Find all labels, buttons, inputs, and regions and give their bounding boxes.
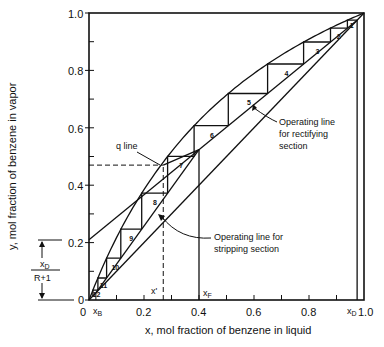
xd-label: xD: [347, 306, 357, 317]
x-tick-0.2: 0.2: [136, 306, 151, 318]
rectifying-label-2: for rectifying: [279, 129, 328, 139]
stage-label: 1: [350, 22, 354, 29]
stage-label: 7: [179, 162, 183, 169]
rectifying-label-1: Operating line: [279, 117, 335, 127]
arrowhead-down-icon: [39, 293, 45, 299]
y-tick-0.4: 0.4: [68, 180, 83, 192]
plot-lines: [89, 13, 364, 300]
y-axis-title: y, mol fraction of benzene in vapor: [6, 82, 18, 250]
stripping-label-1: Operating line for: [214, 232, 283, 242]
mccabe-thiele-diagram: 123456789101112 0 0.2 0.4 0.6 0.8 1.0 0 …: [0, 0, 384, 347]
stage-label: 3: [315, 48, 319, 55]
xb-label: xB: [93, 306, 103, 317]
arrowhead-up-icon: [39, 241, 45, 247]
y-tick-0.8: 0.8: [68, 65, 83, 77]
q-line-pointer: [137, 152, 160, 165]
y-tick-0.6: 0.6: [68, 123, 83, 135]
x-tick-0.6: 0.6: [246, 306, 261, 318]
y-tick-0: 0: [78, 294, 84, 306]
stage-label: 2: [337, 33, 341, 40]
diagonal-line: [89, 13, 364, 300]
xf-label: xF: [203, 288, 212, 299]
axis-ticks: [85, 13, 337, 300]
rectifying-label-3: section: [279, 141, 308, 151]
stage-label: 9: [129, 235, 133, 242]
stage-label: 8: [153, 199, 157, 206]
xprime-label: x': [151, 286, 158, 296]
y-tick-1.0: 1.0: [68, 8, 83, 20]
stage-label: 5: [247, 99, 251, 106]
stage-label: 4: [284, 70, 288, 77]
stage-label: 12: [93, 291, 101, 298]
x-tick-0.8: 0.8: [301, 306, 316, 318]
y-tick-0.2: 0.2: [68, 237, 83, 249]
x-tick-0: 0: [80, 306, 86, 318]
q-line-label: q line: [116, 141, 138, 151]
intercept-denominator: R+1: [34, 273, 51, 283]
x-axis-title: x, mol fraction of benzene in liquid: [145, 324, 311, 336]
stage-label: 10: [111, 264, 119, 271]
intercept-numerator: xD: [40, 259, 50, 270]
x-tick-1.0: 1.0: [358, 306, 373, 318]
stripping-pointer: [162, 217, 211, 238]
x-tick-0.4: 0.4: [191, 306, 206, 318]
stage-label: 6: [210, 132, 214, 139]
stripping-label-2: stripping section: [214, 244, 279, 254]
stage-label: 11: [100, 282, 108, 289]
